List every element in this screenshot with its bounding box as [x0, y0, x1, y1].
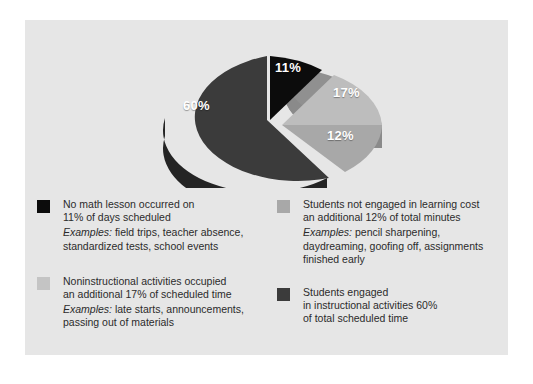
legend-text-line2: in instructional activities 60%: [303, 299, 505, 312]
legend-examples-label: Examples:: [303, 226, 352, 238]
legend-text-line1: Noninstructional activities occupied: [63, 275, 265, 288]
legend-examples-label: Examples:: [63, 303, 112, 315]
legend-text-line1: Students not engaged in learning cost: [303, 198, 505, 211]
legend-examples: Examples: pencil sharpening,: [303, 226, 505, 239]
pie-label-12: 12%: [327, 128, 354, 143]
legend-item-engaged: Students engaged in instructional activi…: [277, 286, 505, 326]
legend-examples-line1: field trips, teacher absence,: [112, 226, 243, 238]
legend-text-line1: Students engaged: [303, 286, 505, 299]
chart-card: 11% 17% 12% 60% No math lesson occurred …: [25, 20, 508, 355]
legend-examples-line2: daydreaming, goofing off, assignments: [303, 240, 505, 253]
legend-swatch-black: [37, 200, 50, 213]
pie-label-60: 60%: [183, 98, 210, 113]
legend-swatch-light-gray: [37, 277, 50, 290]
legend-examples-line1: late starts, announcements,: [112, 303, 244, 315]
page-root: 11% 17% 12% 60% No math lesson occurred …: [0, 0, 533, 384]
legend-item-noninstructional: Noninstructional activities occupied an …: [37, 275, 265, 330]
legend-text-line2: an additional 17% of scheduled time: [63, 288, 265, 301]
legend-examples: Examples: field trips, teacher absence,: [63, 226, 265, 239]
legend-text-line1: No math lesson occurred on: [63, 198, 265, 211]
legend-examples-label: Examples:: [63, 226, 112, 238]
legend-column-left: No math lesson occurred on 11% of days s…: [37, 198, 265, 346]
legend-examples-line2: passing out of materials: [63, 316, 265, 329]
pie-label-17: 17%: [333, 85, 360, 100]
legend-item-not-engaged: Students not engaged in learning cost an…: [277, 198, 505, 266]
legend-examples: Examples: late starts, announcements,: [63, 303, 265, 316]
legend-text-line3: of total scheduled time: [303, 312, 505, 325]
chart-legend: No math lesson occurred on 11% of days s…: [25, 198, 508, 355]
legend-swatch-mid-gray: [277, 200, 290, 213]
legend-examples-line2: standardized tests, school events: [63, 240, 265, 253]
legend-text-line2: 11% of days scheduled: [63, 211, 265, 224]
legend-column-right: Students not engaged in learning cost an…: [277, 198, 505, 342]
legend-examples-line3: finished early: [303, 253, 505, 266]
pie-label-11: 11%: [275, 60, 301, 75]
legend-examples-line1: pencil sharpening,: [352, 226, 440, 238]
pie-chart: 11% 17% 12% 60%: [25, 20, 508, 195]
legend-text-line2: an additional 12% of total minutes: [303, 211, 505, 224]
legend-swatch-dark-gray: [277, 288, 290, 301]
pie-graphic: 11% 17% 12% 60%: [155, 38, 395, 188]
legend-item-no-math-lesson: No math lesson occurred on 11% of days s…: [37, 198, 265, 253]
